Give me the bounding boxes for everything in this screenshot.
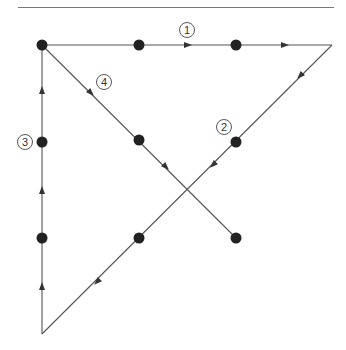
dot xyxy=(231,233,242,244)
dot xyxy=(134,135,145,146)
direction-arrows xyxy=(39,42,305,290)
dot xyxy=(134,40,145,51)
arrow-icon xyxy=(208,160,218,170)
arrow-icon xyxy=(281,42,289,48)
dot xyxy=(37,137,48,148)
dot xyxy=(134,233,145,244)
step-label-1: 1 xyxy=(180,23,195,38)
nine-dot-diagram: 1 2 3 4 xyxy=(0,0,346,350)
arrow-icon xyxy=(39,86,45,94)
svg-text:3: 3 xyxy=(22,136,28,148)
dot xyxy=(37,40,48,51)
svg-text:4: 4 xyxy=(101,76,107,88)
dot xyxy=(231,40,242,51)
svg-text:1: 1 xyxy=(184,24,190,36)
dot xyxy=(231,137,242,148)
arrow-icon xyxy=(39,186,45,194)
step-labels: 1 2 3 4 xyxy=(18,23,232,150)
arrow-icon xyxy=(161,162,171,172)
arrow-icon xyxy=(39,282,45,290)
step-label-3: 3 xyxy=(18,135,33,150)
svg-text:2: 2 xyxy=(221,121,227,133)
dot xyxy=(37,233,48,244)
step-label-4: 4 xyxy=(97,75,112,90)
step-label-2: 2 xyxy=(217,120,232,135)
arrow-icon xyxy=(295,71,305,81)
arrow-icon xyxy=(184,42,192,48)
path-lines xyxy=(42,45,332,334)
